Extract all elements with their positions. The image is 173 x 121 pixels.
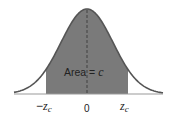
- normal-curve-diagram: Area = c −zc 0 zc: [0, 0, 173, 121]
- area-label: Area = c: [64, 65, 104, 79]
- tick-label-zero: 0: [84, 103, 90, 114]
- tick-label-neg-zc: −zc: [36, 99, 52, 114]
- tick-label-pos-zc: zc: [119, 99, 129, 114]
